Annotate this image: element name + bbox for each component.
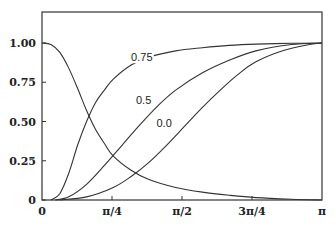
y-axis: 00.250.500.751.00 bbox=[9, 37, 46, 207]
y-tick-label: 1.00 bbox=[9, 37, 36, 50]
y-tick-label: 0.25 bbox=[9, 155, 36, 168]
curve-decreasing bbox=[42, 43, 322, 200]
x-tick-label: 0 bbox=[38, 205, 46, 218]
x-tick-label: π/4 bbox=[102, 205, 122, 218]
plot-frame bbox=[42, 12, 322, 200]
line-chart: 00.250.500.751.00 0π/4π/23π/4π 0.750.50.… bbox=[0, 0, 336, 226]
curves bbox=[42, 43, 322, 200]
y-tick-label: 0.75 bbox=[9, 76, 36, 89]
y-tick-label: 0 bbox=[28, 194, 36, 207]
curve-label: 0.75 bbox=[131, 51, 152, 63]
y-tick-label: 0.50 bbox=[9, 116, 36, 129]
x-tick-label: π bbox=[318, 205, 326, 218]
curve-labels: 0.750.50.0 bbox=[130, 51, 176, 129]
x-tick-label: 3π/4 bbox=[238, 205, 266, 218]
curve-label: 0.0 bbox=[156, 117, 171, 129]
curve-label: 0.5 bbox=[136, 94, 151, 106]
curve-0.0 bbox=[60, 43, 322, 200]
x-tick-label: π/2 bbox=[172, 205, 192, 218]
